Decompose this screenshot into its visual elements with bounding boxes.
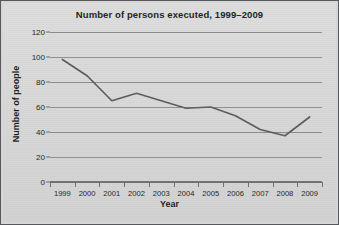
x-tick-mark xyxy=(198,182,199,187)
x-tick-mark xyxy=(124,182,125,187)
x-tick-mark xyxy=(174,182,175,187)
y-tick-label: 120 xyxy=(32,28,45,37)
x-tick-label: 2001 xyxy=(103,189,120,198)
series-polyline xyxy=(62,60,309,136)
y-tick-label: 100 xyxy=(32,53,45,62)
x-axis-title: Year xyxy=(3,199,336,209)
x-tick-label: 2000 xyxy=(79,189,96,198)
plot-area: 020406080100120 199920002001200220032004… xyxy=(50,32,322,182)
x-tick-mark xyxy=(50,182,51,187)
chart-figure-inner: Number of persons executed, 1999–2009 Nu… xyxy=(3,3,336,222)
x-tick-label: 1999 xyxy=(54,189,71,198)
x-tick-label: 2007 xyxy=(252,189,269,198)
series-line-chart xyxy=(50,32,322,182)
y-axis-title-wrapper: Number of people xyxy=(8,29,24,179)
y-tick-label: 60 xyxy=(36,103,45,112)
gridline xyxy=(50,182,322,183)
y-tick-label: 40 xyxy=(36,128,45,137)
y-tick-label: 20 xyxy=(36,153,45,162)
x-tick-mark xyxy=(75,182,76,187)
chart-figure: Number of persons executed, 1999–2009 Nu… xyxy=(0,0,339,225)
y-axis-title: Number of people xyxy=(11,66,21,143)
y-tick-label: 0 xyxy=(41,178,45,187)
x-tick-mark xyxy=(149,182,150,187)
x-tick-mark xyxy=(297,182,298,187)
x-tick-mark xyxy=(248,182,249,187)
x-tick-mark xyxy=(223,182,224,187)
x-tick-label: 2008 xyxy=(276,189,293,198)
x-tick-mark xyxy=(99,182,100,187)
x-tick-label: 2006 xyxy=(227,189,244,198)
x-tick-label: 2005 xyxy=(202,189,219,198)
x-tick-label: 2003 xyxy=(153,189,170,198)
chart-title: Number of persons executed, 1999–2009 xyxy=(3,9,336,20)
x-tick-mark xyxy=(322,182,323,187)
x-tick-label: 2009 xyxy=(301,189,318,198)
x-tick-label: 2004 xyxy=(178,189,195,198)
x-tick-mark xyxy=(273,182,274,187)
x-tick-label: 2002 xyxy=(128,189,145,198)
y-tick-label: 80 xyxy=(36,78,45,87)
